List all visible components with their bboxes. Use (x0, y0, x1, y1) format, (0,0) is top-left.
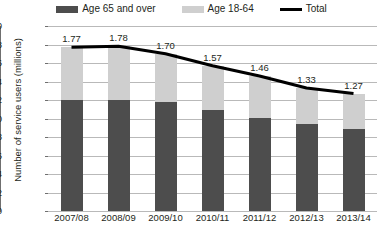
y-axis-tick-label: 0.2 (0, 188, 2, 198)
y-axis-tick-label: 1.8 (0, 40, 2, 50)
y-axis-tick-label: 1.0 (0, 114, 2, 124)
x-axis-category-label: 2013/14 (329, 213, 379, 223)
total-value-label: 1.70 (146, 41, 186, 51)
legend-item-age-65-and-over[interactable]: Age 65 and over (56, 4, 155, 14)
chart-legend: Age 65 and over Age 18-64 Total (0, 1, 383, 17)
stacked-bar-chart: Age 65 and over Age 18-64 Total Number o… (0, 0, 383, 235)
legend-label-age-18-64: Age 18-64 (208, 4, 254, 14)
total-value-label: 1.33 (287, 75, 327, 85)
y-axis-tick-label: 0.4 (0, 169, 2, 179)
legend-label-total: Total (306, 4, 327, 14)
total-value-label: 1.27 (334, 81, 374, 91)
legend-line-black-icon (280, 8, 302, 11)
legend-item-total[interactable]: Total (280, 4, 327, 14)
y-axis-tick-label: 1.4 (0, 77, 2, 87)
total-value-label: 1.77 (52, 34, 92, 44)
legend-swatch-dark-icon (56, 6, 78, 13)
x-axis-category-label: 2008/09 (94, 213, 144, 223)
legend-swatch-light-icon (182, 6, 204, 13)
y-axis-tick-label: 0.6 (0, 151, 2, 161)
total-value-label: 1.57 (193, 53, 233, 63)
x-axis-category-label: 2011/12 (235, 213, 285, 223)
total-value-label: 1.78 (99, 33, 139, 43)
y-axis-title: Number of service users (millions) (13, 15, 23, 205)
x-axis-category-label: 2009/10 (141, 213, 191, 223)
y-axis-tick-label: 0.8 (0, 132, 2, 142)
total-value-label: 1.46 (240, 63, 280, 73)
y-axis-tick-label: 1.2 (0, 95, 2, 105)
legend-label-age-65-and-over: Age 65 and over (82, 4, 155, 14)
y-axis-tick-label: 1.6 (0, 58, 2, 68)
x-axis-category-label: 2012/13 (282, 213, 332, 223)
y-axis-tick-label: 0.0 (0, 206, 2, 216)
legend-item-age-18-64[interactable]: Age 18-64 (182, 4, 254, 14)
y-axis-tick-label: 2.0 (0, 21, 2, 31)
x-axis-category-label: 2007/08 (47, 213, 97, 223)
x-axis-category-label: 2010/11 (188, 213, 238, 223)
